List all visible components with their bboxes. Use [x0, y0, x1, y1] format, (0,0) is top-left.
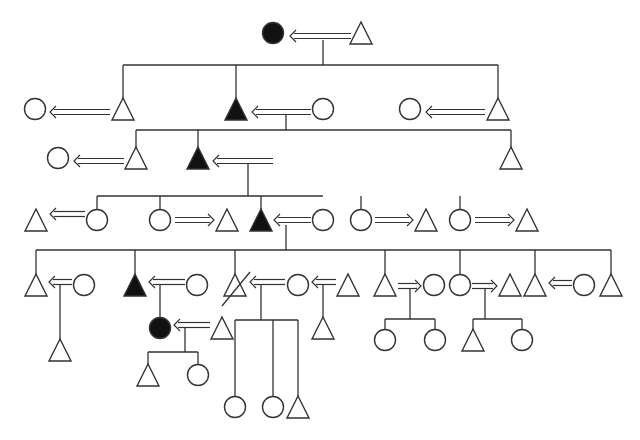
female-icon	[425, 330, 446, 351]
marriage-arrow-icon	[274, 214, 311, 226]
female-icon	[351, 210, 372, 231]
female-icon	[574, 275, 595, 296]
female-icon	[450, 275, 471, 296]
marriage-arrow-icon	[175, 214, 214, 226]
female-icon	[313, 210, 334, 231]
male-icon	[499, 274, 521, 296]
male-icon	[112, 98, 134, 120]
male-icon	[337, 274, 359, 296]
male-icon	[524, 274, 546, 296]
male-icon	[216, 209, 238, 231]
marriage-arrow-icon	[290, 30, 351, 42]
male-icon	[374, 274, 396, 296]
female-icon	[375, 330, 396, 351]
marriage-arrow-icon	[250, 276, 285, 288]
male-icon	[25, 274, 47, 296]
female-icon	[225, 397, 246, 418]
marriage-arrow-icon	[252, 106, 311, 118]
male-icon	[137, 364, 159, 386]
female-icon	[48, 148, 69, 169]
male-icon	[125, 147, 147, 169]
affected-female-icon	[150, 318, 171, 339]
female-icon	[25, 99, 46, 120]
affected-male-icon	[250, 209, 272, 231]
female-icon	[400, 99, 421, 120]
female-icon	[187, 275, 208, 296]
affected-female-icon	[263, 23, 284, 44]
marriage-arrow-icon	[213, 155, 273, 167]
marriage-arrow-icon	[549, 277, 572, 289]
male-icon	[350, 22, 372, 44]
marriage-arrow-icon	[375, 214, 413, 226]
female-icon	[188, 365, 209, 386]
marriage-arrow-icon	[174, 319, 210, 331]
male-icon	[287, 396, 309, 418]
individuals	[25, 22, 623, 418]
female-icon	[424, 275, 445, 296]
marriage-arrows	[49, 30, 572, 331]
male-icon	[224, 274, 246, 296]
marriage-arrow-icon	[149, 276, 185, 288]
marriage-arrow-icon	[74, 155, 124, 167]
male-icon	[49, 339, 71, 361]
female-icon	[288, 275, 309, 296]
male-icon	[312, 317, 334, 339]
male-icon	[500, 147, 522, 169]
pedigree-svg	[0, 0, 640, 440]
male-icon	[600, 274, 622, 296]
marriage-arrow-icon	[426, 106, 485, 118]
female-icon	[263, 397, 284, 418]
female-icon	[450, 210, 471, 231]
affected-male-icon	[225, 98, 247, 120]
marriage-arrow-icon	[50, 208, 85, 220]
female-icon	[313, 99, 334, 120]
female-icon	[74, 275, 95, 296]
male-icon	[415, 209, 437, 231]
marriage-arrow-icon	[50, 106, 110, 118]
affected-male-icon	[187, 147, 209, 169]
male-icon	[462, 329, 484, 351]
male-icon	[487, 98, 509, 120]
female-icon	[150, 210, 171, 231]
marriage-arrow-icon	[475, 214, 514, 226]
male-icon	[25, 209, 47, 231]
male-icon	[211, 317, 233, 339]
affected-male-icon	[124, 274, 146, 296]
male-icon	[516, 209, 538, 231]
pedigree-diagram	[0, 0, 640, 440]
marriage-arrow-icon	[312, 276, 336, 288]
female-icon	[87, 210, 108, 231]
female-icon	[512, 330, 533, 351]
